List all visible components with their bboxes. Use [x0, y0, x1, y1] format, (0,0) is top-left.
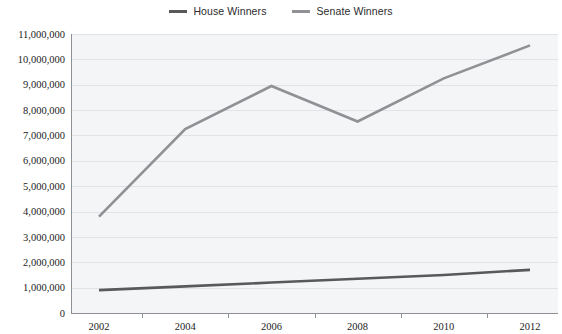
y-axis: 01,000,0002,000,0003,000,0004,000,0005,0…: [18, 29, 72, 319]
x-axis-tick-label: 2006: [261, 321, 282, 332]
line-chart: House Winners Senate Winners 01,000,0002…: [0, 0, 562, 334]
y-axis-tick-label: 9,000,000: [23, 79, 65, 90]
y-axis-tick-label: 2,000,000: [23, 257, 65, 268]
chart-canvas: 01,000,0002,000,0003,000,0004,000,0005,0…: [0, 0, 562, 334]
x-axis-tick-label: 2008: [347, 321, 368, 332]
x-axis: 200220042006200820102012: [71, 313, 558, 332]
y-axis-tick-label: 3,000,000: [23, 232, 65, 243]
x-axis-tick-label: 2004: [175, 321, 197, 332]
y-axis-tick-label: 6,000,000: [23, 155, 65, 166]
y-axis-tick-label: 7,000,000: [23, 130, 65, 141]
y-axis-tick-label: 0: [60, 308, 65, 319]
y-axis-tick-label: 4,000,000: [23, 206, 65, 217]
x-axis-tick-label: 2012: [520, 321, 541, 332]
y-axis-tick-label: 8,000,000: [23, 105, 65, 116]
y-axis-tick-label: 10,000,000: [18, 54, 65, 65]
x-axis-tick-label: 2010: [433, 321, 454, 332]
y-axis-tick-label: 5,000,000: [23, 181, 65, 192]
plot-area: 01,000,0002,000,0003,000,0004,000,0005,0…: [0, 0, 562, 334]
y-axis-tick-label: 11,000,000: [18, 29, 65, 40]
x-axis-tick-label: 2002: [89, 321, 110, 332]
plot-background: [71, 34, 558, 313]
y-axis-tick-label: 1,000,000: [23, 282, 65, 293]
